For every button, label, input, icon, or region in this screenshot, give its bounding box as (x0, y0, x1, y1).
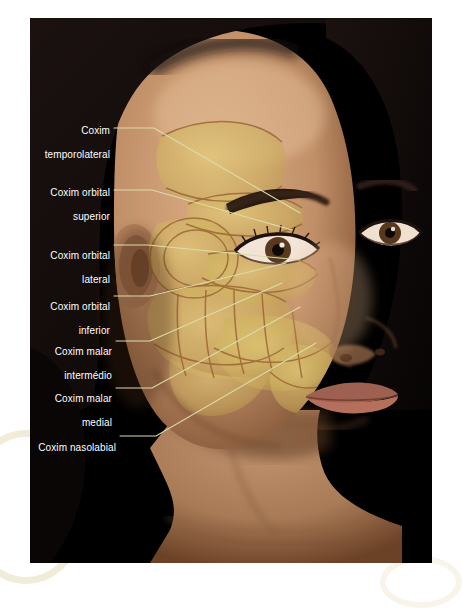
label-line-1: Coxim orbital (0, 250, 110, 262)
label-line-1: Coxim malar (0, 346, 112, 358)
label-line-1: Coxim malar (0, 393, 112, 405)
label-coxim-orbital-superior: Coxim orbital superior (0, 175, 110, 235)
label-line-1: Coxim orbital (0, 301, 110, 313)
label-coxim-nasolabial: Coxim nasolabial (0, 430, 116, 466)
watermark-arc-bottom (380, 556, 462, 608)
label-coxim-temporolateral: Coxim temporolateral (0, 113, 110, 173)
label-line-1: Coxim (0, 125, 110, 137)
label-line-2: medial (0, 417, 112, 429)
label-line-1: Coxim orbital (0, 187, 110, 199)
label-line-2: temporolateral (0, 149, 110, 161)
label-line-1: Coxim nasolabial (0, 442, 116, 454)
label-line-2: lateral (0, 274, 110, 286)
label-line-2: superior (0, 211, 110, 223)
